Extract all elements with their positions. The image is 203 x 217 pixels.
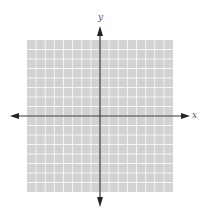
x-axis-right-arrow-icon xyxy=(181,113,190,119)
y-axis-label: y xyxy=(98,13,103,22)
x-axis-left-arrow-icon xyxy=(10,113,19,119)
coordinate-plane xyxy=(0,0,203,217)
x-axis-label: x xyxy=(192,111,197,120)
y-axis-down-arrow-icon xyxy=(97,197,103,207)
y-axis-up-arrow-icon xyxy=(97,26,103,36)
